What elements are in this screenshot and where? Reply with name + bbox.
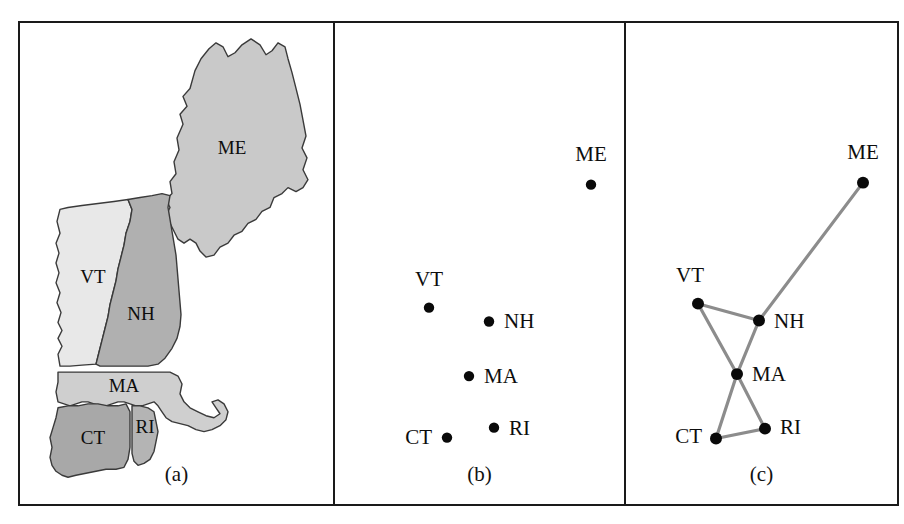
graph-label-ct: CT <box>675 425 702 449</box>
map-label-nh: NH <box>127 303 155 324</box>
new-england-map: MEVTNHMACTRI <box>20 23 333 504</box>
graph-node-me[interactable] <box>857 177 869 189</box>
panel-map: MEVTNHMACTRI (a) <box>20 23 333 504</box>
graph-node-ma[interactable] <box>731 368 743 380</box>
scatter-label-nh: NH <box>504 310 534 334</box>
map-label-me: ME <box>218 137 246 158</box>
scatter-point-ct[interactable] <box>442 432 452 442</box>
map-regions <box>50 39 308 477</box>
map-label-ct: CT <box>81 427 106 448</box>
scatter-label-ri: RI <box>509 416 530 440</box>
panel-c-caption: (c) <box>626 462 897 487</box>
graph-edge-ct-ri <box>716 429 765 439</box>
graph-node-nh[interactable] <box>753 315 765 327</box>
graph-label-me: ME <box>847 140 878 164</box>
panel-scatter: MEVTNHMARICT (b) <box>335 23 624 504</box>
graph-node-ri[interactable] <box>759 423 771 435</box>
graph-node-ct[interactable] <box>710 433 722 445</box>
scatter-label-vt: VT <box>415 267 443 291</box>
graph-label-vt: VT <box>676 263 704 287</box>
scatter-label-me: ME <box>575 142 606 166</box>
scatter-label-ct: CT <box>405 426 432 450</box>
scatter-point-ma[interactable] <box>464 371 474 381</box>
scatter-point-vt[interactable] <box>424 302 434 312</box>
scatter-label-ma: MA <box>484 364 518 388</box>
adjacency-graph: MEVTNHMARICT <box>626 23 897 504</box>
graph-label-nh: NH <box>774 310 804 334</box>
figure-frame: MEVTNHMACTRI (a) MEVTNHMARICT (b) MEVTNH… <box>18 21 899 506</box>
graph-edge-me-nh <box>759 183 863 321</box>
graph-node-vt[interactable] <box>692 298 704 310</box>
scatter-point-nh[interactable] <box>484 316 494 326</box>
panel-graph: MEVTNHMARICT (c) <box>626 23 897 504</box>
centroid-scatter-plot: MEVTNHMARICT <box>335 23 624 504</box>
graph-edge-ma-ct <box>716 374 737 438</box>
graph-label-ri: RI <box>780 415 801 439</box>
panel-a-caption: (a) <box>20 462 333 487</box>
map-label-ri: RI <box>136 416 155 437</box>
figure-root: MEVTNHMACTRI (a) MEVTNHMARICT (b) MEVTNH… <box>0 0 904 524</box>
map-label-ma: MA <box>109 375 140 396</box>
scatter-point-me[interactable] <box>586 179 596 189</box>
panel-b-caption: (b) <box>335 462 624 487</box>
scatter-nodes: MEVTNHMARICT <box>405 142 607 450</box>
map-label-vt: VT <box>80 266 106 287</box>
graph-label-ma: MA <box>752 362 786 386</box>
scatter-point-ri[interactable] <box>489 422 499 432</box>
